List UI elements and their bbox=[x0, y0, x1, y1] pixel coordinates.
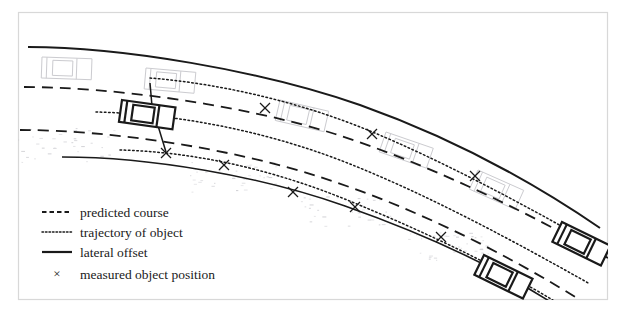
texture-speck bbox=[440, 232, 442, 233]
texture-speck bbox=[444, 236, 447, 237]
texture-speck bbox=[241, 185, 244, 186]
texture-speck bbox=[91, 143, 93, 144]
texture-speck bbox=[77, 151, 79, 152]
texture-speck bbox=[416, 235, 417, 236]
texture-speck bbox=[337, 197, 339, 198]
texture-speck bbox=[314, 216, 316, 217]
texture-speck bbox=[458, 247, 460, 248]
texture-speck bbox=[408, 239, 411, 240]
vehicle-cabin bbox=[131, 105, 155, 124]
texture-speck bbox=[244, 190, 248, 191]
texture-speck bbox=[462, 259, 464, 260]
texture-speck bbox=[471, 236, 473, 237]
texture-speck bbox=[205, 172, 207, 173]
texture-speck bbox=[348, 226, 351, 227]
texture-speck bbox=[322, 216, 326, 217]
texture-speck bbox=[488, 253, 489, 254]
texture-speck bbox=[259, 175, 261, 176]
legend-label-predicted-course: predicted course bbox=[80, 205, 169, 220]
texture-speck bbox=[270, 188, 273, 189]
texture-speck bbox=[88, 130, 91, 131]
texture-speck bbox=[76, 128, 78, 129]
texture-speck bbox=[267, 176, 269, 177]
texture-speck bbox=[263, 177, 264, 178]
legend-label-measured-object-position: measured object position bbox=[80, 267, 215, 282]
texture-speck bbox=[358, 217, 361, 218]
texture-speck bbox=[467, 243, 468, 244]
texture-speck bbox=[475, 237, 477, 238]
texture-speck bbox=[74, 130, 78, 131]
texture-speck bbox=[236, 171, 238, 172]
texture-speck bbox=[309, 199, 311, 200]
texture-speck bbox=[212, 186, 215, 187]
texture-speck bbox=[254, 167, 258, 168]
texture-speck bbox=[304, 197, 306, 198]
texture-speck bbox=[192, 192, 194, 193]
texture-speck bbox=[36, 144, 39, 145]
texture-speck bbox=[352, 212, 353, 213]
texture-speck bbox=[71, 142, 73, 143]
texture-speck bbox=[74, 140, 77, 141]
texture-speck bbox=[309, 208, 311, 209]
texture-speck bbox=[434, 236, 436, 237]
texture-speck bbox=[429, 257, 432, 258]
texture-speck bbox=[486, 246, 489, 247]
texture-speck bbox=[249, 165, 252, 166]
texture-speck bbox=[248, 175, 251, 176]
figure-root: predicted coursetrajectory of objectlate… bbox=[0, 0, 626, 322]
texture-speck bbox=[390, 216, 391, 217]
texture-speck bbox=[434, 258, 437, 259]
texture-speck bbox=[481, 253, 483, 254]
texture-speck bbox=[59, 134, 63, 135]
texture-speck bbox=[420, 253, 422, 254]
texture-speck bbox=[386, 212, 388, 213]
texture-speck bbox=[370, 219, 374, 220]
texture-speck bbox=[34, 158, 35, 159]
texture-speck bbox=[194, 184, 197, 185]
texture-speck bbox=[429, 259, 431, 260]
texture-speck bbox=[301, 201, 303, 202]
texture-speck bbox=[421, 238, 422, 239]
texture-speck bbox=[232, 178, 235, 179]
texture-speck bbox=[74, 138, 77, 139]
texture-speck bbox=[192, 162, 193, 163]
texture-speck bbox=[100, 156, 104, 157]
texture-speck bbox=[81, 146, 85, 147]
texture-speck bbox=[358, 212, 361, 213]
texture-speck bbox=[326, 196, 330, 197]
road-scene-diagram: predicted coursetrajectory of objectlate… bbox=[0, 0, 626, 322]
texture-speck bbox=[101, 147, 103, 148]
texture-speck bbox=[305, 206, 307, 207]
texture-speck bbox=[461, 248, 462, 249]
texture-speck bbox=[453, 252, 455, 253]
texture-speck bbox=[86, 161, 88, 162]
texture-speck bbox=[382, 224, 386, 225]
texture-speck bbox=[269, 177, 273, 178]
legend-label-lateral-offset: lateral offset bbox=[80, 245, 148, 260]
texture-speck bbox=[200, 180, 203, 181]
texture-speck bbox=[242, 183, 246, 184]
texture-speck bbox=[373, 200, 376, 201]
texture-speck bbox=[453, 235, 455, 236]
texture-speck bbox=[198, 182, 201, 183]
texture-speck bbox=[52, 138, 55, 139]
texture-speck bbox=[193, 180, 196, 181]
texture-speck bbox=[42, 148, 45, 149]
texture-speck bbox=[436, 260, 437, 261]
texture-speck bbox=[310, 221, 313, 222]
texture-speck bbox=[456, 237, 459, 238]
texture-speck bbox=[317, 210, 319, 211]
texture-speck bbox=[275, 166, 277, 167]
texture-speck bbox=[236, 190, 238, 191]
texture-speck bbox=[481, 236, 483, 237]
texture-speck bbox=[22, 162, 24, 163]
texture-speck bbox=[113, 130, 115, 131]
texture-speck bbox=[379, 224, 381, 225]
texture-speck bbox=[196, 172, 198, 173]
texture-speck bbox=[218, 170, 221, 171]
texture-speck bbox=[475, 251, 478, 252]
texture-speck bbox=[214, 183, 215, 184]
texture-speck bbox=[108, 155, 111, 156]
texture-speck bbox=[53, 148, 57, 149]
texture-speck bbox=[64, 141, 67, 142]
